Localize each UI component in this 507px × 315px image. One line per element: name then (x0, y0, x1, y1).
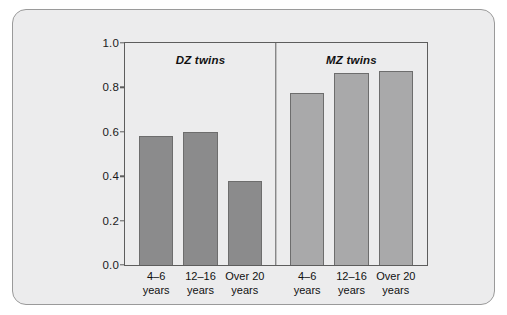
bar-item: 12–16 years (183, 43, 217, 265)
y-tick-label: 0.6 (102, 126, 119, 138)
x-tick-label-line1: 4–6 (147, 270, 165, 282)
bar-item: 4–6 years (290, 43, 324, 265)
x-tick-label-line1: Over 20 (225, 270, 264, 282)
bar-mz-12-16[interactable] (334, 73, 368, 265)
x-tick-label: 4–6 years (282, 270, 332, 297)
x-tick-label-line2: years (143, 284, 170, 296)
y-tick-label: 0.2 (102, 215, 119, 227)
bar-mz-4-6[interactable] (290, 93, 324, 265)
bar-dz-4-6[interactable] (139, 136, 173, 265)
panel-mz-twins: MZ twins 4–6 years 12–16 years (276, 43, 427, 265)
x-tick-label-line1: 12–16 (336, 270, 367, 282)
bar-mz-over-20[interactable] (379, 71, 413, 265)
x-tick-label-line1: 12–16 (185, 270, 216, 282)
x-tick-label-line2: years (187, 284, 214, 296)
x-tick-label: 12–16 years (175, 270, 225, 297)
x-tick-label: 12–16 years (326, 270, 376, 297)
x-tick-label-line1: Over 20 (376, 270, 415, 282)
plot-area: 0.00.20.40.60.81.0 DZ twins 4–6 years 12… (124, 42, 428, 266)
x-tick-label: Over 20 years (371, 270, 421, 297)
bar-item: Over 20 years (379, 43, 413, 265)
x-tick-label-line2: years (294, 284, 321, 296)
bar-item: 4–6 years (139, 43, 173, 265)
bar-group-dz: 4–6 years 12–16 years Over 20 years (125, 43, 276, 265)
bar-dz-over-20[interactable] (228, 181, 262, 265)
bar-group-mz: 4–6 years 12–16 years Over 20 years (276, 43, 427, 265)
bar-dz-12-16[interactable] (183, 132, 217, 265)
x-tick-label-line2: years (382, 284, 409, 296)
y-tick-label: 0.4 (102, 170, 119, 182)
chart-card: 0.00.20.40.60.81.0 DZ twins 4–6 years 12… (12, 9, 495, 305)
x-tick-label-line2: years (231, 284, 258, 296)
y-tick-label: 1.0 (102, 37, 119, 49)
panel-dz-twins: DZ twins 4–6 years 12–16 years (125, 43, 276, 265)
x-tick-label-line1: 4–6 (298, 270, 316, 282)
x-tick-label: Over 20 years (220, 270, 270, 297)
bar-item: 12–16 years (334, 43, 368, 265)
x-tick-label: 4–6 years (131, 270, 181, 297)
y-tick-label: 0.0 (102, 259, 119, 271)
bar-item: Over 20 years (228, 43, 262, 265)
x-tick-label-line2: years (338, 284, 365, 296)
y-tick-label: 0.8 (102, 81, 119, 93)
